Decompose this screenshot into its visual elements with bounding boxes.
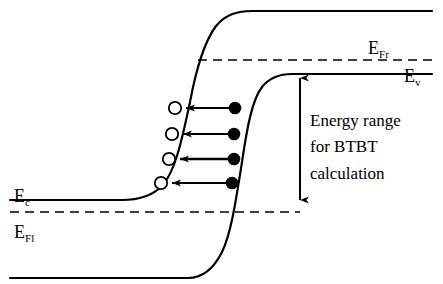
empty-state-circle-3 bbox=[163, 153, 175, 165]
band-diagram-figure: EFr Ev Ec EFl Energy range for BTBT calc… bbox=[0, 0, 443, 284]
label-e-fr-symbol: E bbox=[368, 38, 379, 58]
filled-state-circle-3 bbox=[228, 153, 239, 164]
filled-state-circle-1 bbox=[229, 102, 240, 113]
label-e-fl: EFl bbox=[14, 222, 34, 243]
label-e-v-symbol: E bbox=[404, 66, 415, 86]
annotation-line-3: calculation bbox=[310, 161, 401, 187]
empty-state-circle-4 bbox=[155, 177, 167, 189]
empty-state-circle-2 bbox=[166, 128, 178, 140]
empty-state-circle-1 bbox=[169, 102, 181, 114]
label-e-fr-subscript: Fr bbox=[379, 48, 389, 60]
label-e-c-subscript: c bbox=[25, 196, 30, 208]
annotation-line-2: for BTBT bbox=[310, 134, 401, 160]
label-e-v-subscript: v bbox=[415, 76, 421, 88]
filled-state-circle-2 bbox=[228, 128, 239, 139]
label-e-c-symbol: E bbox=[14, 186, 25, 206]
annotation-line-1: Energy range bbox=[310, 108, 401, 134]
label-e-fr: EFr bbox=[368, 38, 389, 59]
energy-range-annotation: Energy range for BTBT calculation bbox=[310, 108, 401, 187]
label-e-fl-subscript: Fl bbox=[25, 232, 34, 244]
label-e-fl-symbol: E bbox=[14, 222, 25, 242]
label-e-v: Ev bbox=[404, 66, 421, 87]
filled-state-circle-4 bbox=[226, 177, 237, 188]
label-e-c: Ec bbox=[14, 186, 30, 207]
